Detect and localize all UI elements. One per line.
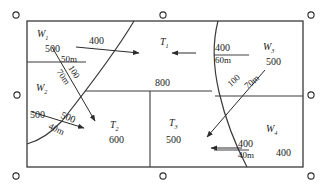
flow-w4: 400 <box>238 139 253 149</box>
zone-label-t2: T2 <box>110 120 119 132</box>
distance-w3: 60m <box>215 56 231 65</box>
zone-label-t1: T1 <box>160 37 169 49</box>
value-t3: 500 <box>166 135 181 145</box>
registration-circle-bottom-right <box>308 173 314 179</box>
registration-circle-top-right <box>308 12 314 18</box>
distance-w4: 40m <box>238 151 254 160</box>
zone-label-w3: W3 <box>263 42 274 54</box>
value-t1: 800 <box>155 78 170 88</box>
registration-circle-bottom-left <box>13 173 19 179</box>
zone-label-w1: W1 <box>37 29 48 41</box>
registration-circle-mid-left <box>14 92 20 98</box>
registration-circle-mid-right <box>308 92 314 98</box>
flow-arrow-w1 <box>76 47 139 53</box>
zone-label-w2: W2 <box>36 83 47 95</box>
flow-w3: 400 <box>215 43 230 53</box>
zone-label-t3: T3 <box>169 118 178 130</box>
ventilation-network-diagram <box>0 0 325 191</box>
registration-circle-bottom-center <box>160 173 166 179</box>
zone-label-w4: W4 <box>266 124 277 136</box>
flow-w1: 400 <box>89 36 104 46</box>
boundary-arcs <box>27 21 247 167</box>
quantity-w2-b: 500 <box>30 110 45 120</box>
quantity-w1: 500 <box>45 44 60 54</box>
registration-circle-top-center <box>160 12 166 18</box>
dimension-lead-lines <box>214 55 249 150</box>
quantity-w3: 500 <box>266 57 281 67</box>
quantity-w4: 400 <box>276 148 291 158</box>
registration-circle-top-left <box>13 12 19 18</box>
value-t2: 600 <box>109 135 124 145</box>
